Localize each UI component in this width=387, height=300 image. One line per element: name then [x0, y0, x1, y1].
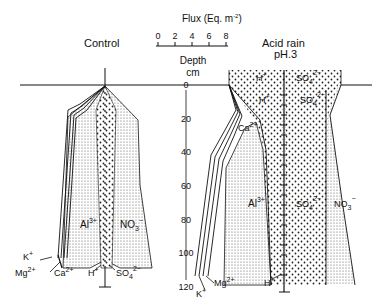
- depth-label: Depth: [180, 55, 207, 66]
- acid-input-area: [229, 70, 341, 85]
- control-so4-label: SO42−: [116, 265, 141, 280]
- flux-scale: Flux (Eq. m-2) 02468: [155, 13, 241, 46]
- flux-diagram: Flux (Eq. m-2) 02468 Depth cm 0204060801…: [0, 0, 387, 300]
- depth-unit: cm: [186, 67, 199, 78]
- control-mg-label: Mg2+: [15, 266, 36, 278]
- control-k-label: K+: [23, 250, 33, 262]
- depth-tick-label: 120: [178, 282, 193, 292]
- acid-k-label: K+: [196, 287, 206, 299]
- flux-tick-label: 4: [189, 31, 194, 41]
- acid-mg-label: Mg2+: [214, 276, 235, 288]
- acid-rain-panel: Acid rain pH.3 H+ SO42− H+: [195, 37, 356, 299]
- depth-tick-label: 60: [181, 181, 191, 191]
- flux-scale-title: Flux (Eq. m-2): [182, 13, 242, 24]
- control-h-label: H+: [88, 266, 99, 278]
- acid-rain-ph: pH.3: [274, 48, 297, 60]
- acid-h-label: H+: [264, 276, 275, 288]
- depth-tick-label: 0: [183, 80, 188, 90]
- control-title: Control: [84, 37, 119, 49]
- depth-tick-label: 100: [178, 248, 193, 258]
- flux-tick-label: 0: [155, 31, 160, 41]
- control-panel: Control Al3+ NO3− K+ Mg2+ Ca2+ H+ SO42−: [15, 37, 152, 287]
- depth-tick-label: 80: [181, 215, 191, 225]
- depth-tick-label: 20: [181, 114, 191, 124]
- control-ca-label: Ca2+: [54, 266, 74, 278]
- depth-tick-label: 40: [181, 147, 191, 157]
- flux-tick-label: 6: [206, 31, 211, 41]
- flux-tick-label: 8: [223, 31, 228, 41]
- flux-tick-label: 2: [172, 31, 177, 41]
